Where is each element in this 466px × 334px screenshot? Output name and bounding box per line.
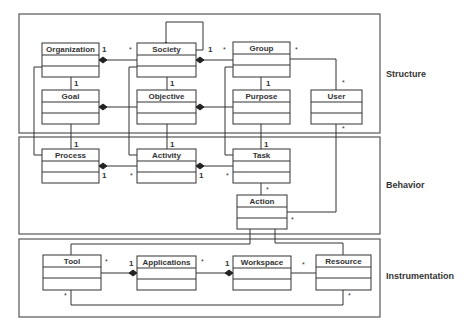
task-name: Task: [253, 151, 271, 160]
mult-process-activity-star: *: [130, 172, 133, 179]
activity-name: Activity: [152, 151, 181, 160]
organization-process-connector: [34, 67, 42, 155]
mult-purpose-task-1: 1: [264, 140, 269, 149]
class-user[interactable]: User: [311, 90, 362, 124]
class-workspace[interactable]: Workspace: [233, 256, 291, 290]
mult-applications-workspace-1: 1: [225, 259, 230, 268]
mult-organization-goal-1: 1: [74, 79, 79, 88]
mult-organization-society-star: *: [129, 46, 132, 53]
resource-name: Resource: [325, 257, 362, 266]
mult-group-user-star-b: *: [342, 79, 345, 86]
mult-goal-process-1: 1: [74, 140, 79, 149]
group-user-connector: [290, 59, 336, 90]
behavior-label: Behavior: [386, 180, 425, 190]
class-objective[interactable]: Objective: [137, 90, 196, 124]
mult-society-objective-1: 1: [170, 79, 175, 88]
class-organization[interactable]: Organization: [42, 43, 99, 77]
class-task[interactable]: Task: [233, 149, 290, 183]
mult-task-action-star: *: [266, 186, 269, 193]
mult-applications-workspace-star: *: [201, 258, 204, 265]
class-society[interactable]: Society: [137, 43, 196, 77]
applications-name: Applications: [142, 258, 191, 267]
purpose-name: Purpose: [245, 92, 278, 101]
mult-group-purpose-1: 1: [266, 79, 271, 88]
process-activity-diamond-icon: [99, 163, 107, 169]
mult-group-user-star-a: *: [295, 46, 298, 53]
group-task-connector: [225, 67, 233, 155]
mult-user-action-star-b: *: [291, 216, 294, 223]
activity-task-diamond-icon: [196, 163, 204, 169]
tool-name: Tool: [64, 257, 80, 266]
mult-objective-activity-1: 1: [170, 140, 175, 149]
action-name: Action: [250, 197, 275, 206]
society-activity-connector: [129, 67, 137, 155]
mult-process-activity-1: 1: [102, 171, 107, 180]
objective-name: Objective: [148, 92, 185, 101]
structure-label: Structure: [386, 69, 426, 79]
society-group-diamond-icon: [196, 57, 204, 63]
class-group[interactable]: Group: [233, 42, 290, 77]
organization-name: Organization: [46, 45, 95, 54]
society-name: Society: [152, 45, 181, 54]
objective-purpose-diamond-icon: [196, 104, 204, 110]
tool-resource-connector: [71, 290, 343, 305]
organization-society-diamond-icon: [99, 57, 107, 63]
workspace-name: Workspace: [241, 258, 284, 267]
mult-user-action-star-a: *: [342, 125, 345, 132]
mult-organization-society-1: 1: [102, 45, 107, 54]
mult-tool-applications-1: 1: [129, 259, 134, 268]
uml-diagram: Structure Behavior Instrumentation: [0, 0, 466, 334]
class-tool[interactable]: Tool: [43, 255, 101, 290]
class-goal[interactable]: Goal: [42, 90, 99, 124]
mult-tool-resource-star-b: *: [348, 292, 351, 299]
class-purpose[interactable]: Purpose: [233, 90, 290, 124]
action-tool-connector: [71, 229, 250, 255]
class-resource[interactable]: Resource: [316, 255, 371, 290]
instrumentation-label: Instrumentation: [386, 271, 454, 281]
mult-activity-task-star: *: [226, 172, 229, 179]
class-applications[interactable]: Applications: [137, 256, 196, 290]
mult-activity-task-1: 1: [199, 171, 204, 180]
user-name: User: [328, 92, 346, 101]
applications-workspace-diamond-icon: [225, 270, 233, 276]
class-process[interactable]: Process: [42, 149, 99, 183]
process-name: Process: [55, 151, 87, 160]
class-action[interactable]: Action: [237, 195, 287, 229]
mult-society-group-1: 1: [208, 45, 213, 54]
goal-name: Goal: [62, 92, 80, 101]
mult-tool-resource-star-a: *: [64, 292, 67, 299]
mult-society-group-star: *: [223, 46, 226, 53]
mult-workspace-resource-star: *: [302, 261, 305, 268]
tool-applications-diamond-icon: [129, 270, 137, 276]
action-resource-connector: [275, 229, 343, 255]
mult-tool-applications-star: *: [105, 258, 108, 265]
group-name: Group: [250, 44, 274, 53]
goal-objective-diamond-icon: [99, 104, 107, 110]
class-activity[interactable]: Activity: [137, 149, 196, 183]
